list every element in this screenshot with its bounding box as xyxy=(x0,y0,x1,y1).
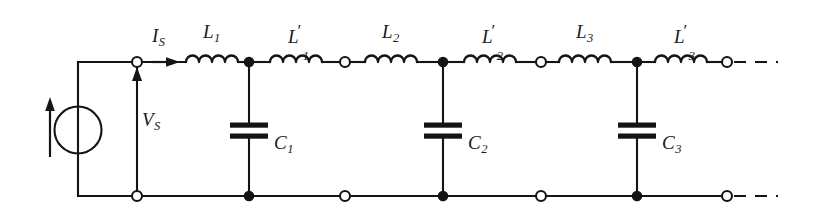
label-l3-prime: L′3 xyxy=(674,22,687,46)
capacitor-C1 xyxy=(230,66,268,192)
inductor-L1-prime xyxy=(249,56,340,63)
label-l1-prime: L′1 xyxy=(288,22,301,46)
terminal-open-bottom-left xyxy=(132,191,142,201)
terminal-open-top-right xyxy=(722,57,732,67)
is-arrow-icon xyxy=(152,57,180,67)
terminal-open-bottom-1 xyxy=(340,191,350,201)
label-l1: L1 xyxy=(203,22,220,44)
label-is: IS xyxy=(152,26,165,48)
circuit-schematic-canvas xyxy=(0,0,817,217)
inductor-L3-prime xyxy=(637,56,722,63)
terminal-open-top-2 xyxy=(536,57,546,67)
source-direction-arrow-icon xyxy=(45,97,55,157)
capacitor-C3 xyxy=(618,66,656,192)
capacitor-C2 xyxy=(424,66,462,192)
terminal-open-bottom-right xyxy=(722,191,732,201)
vs-arrow-icon xyxy=(132,67,142,81)
inductor-L3 xyxy=(546,56,637,63)
terminal-open-bottom-2 xyxy=(536,191,546,201)
label-l2-prime: L′2 xyxy=(482,22,495,46)
inductor-L2 xyxy=(350,56,443,63)
terminal-open-top-vs xyxy=(132,57,142,67)
label-vs: VS xyxy=(142,110,160,132)
circuit-diagram: IS VS L1 L′1 L2 L′2 L3 L′3 C1 C2 C3 xyxy=(0,0,817,217)
label-c3: C3 xyxy=(662,133,681,155)
label-c2: C2 xyxy=(468,133,487,155)
terminal-open-top-1 xyxy=(340,57,350,67)
label-c1: C1 xyxy=(274,133,293,155)
inductor-L2-prime xyxy=(443,56,536,63)
inductor-L1 xyxy=(186,56,249,63)
label-l2: L2 xyxy=(382,22,399,44)
label-l3: L3 xyxy=(576,22,593,44)
